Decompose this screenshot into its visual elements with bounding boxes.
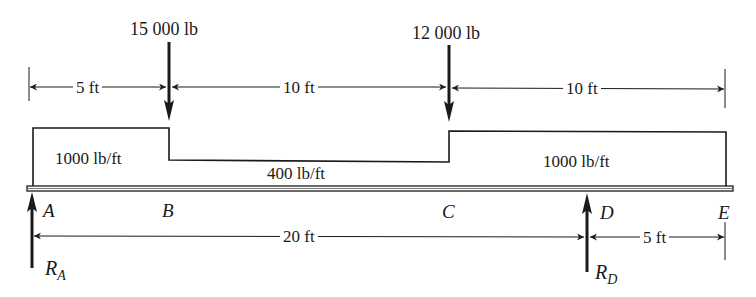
dist-load-c-e-label: 1000 lb/ft <box>543 153 610 170</box>
point-label-d: D <box>600 203 614 222</box>
reaction-d-label: RD <box>595 262 617 287</box>
dim-label-a-b: 5 ft <box>73 79 102 96</box>
point-load-c-arrow <box>444 45 454 122</box>
reaction-a-label: RA <box>45 258 66 283</box>
beam <box>27 186 733 191</box>
reaction-a-arrow <box>27 192 37 268</box>
upper-dimension-line <box>29 67 725 108</box>
point-load-b-arrow <box>164 42 174 121</box>
reaction-a-subscript: A <box>57 268 66 283</box>
dim-label-b-c: 10 ft <box>280 79 318 96</box>
point-load-c-label: 12 000 lb <box>412 24 480 42</box>
reaction-d-subscript: D <box>607 272 617 287</box>
dim-label-c-e: 10 ft <box>563 80 601 97</box>
beam-diagram: 15 000 lb 12 000 lb 5 ft 10 ft 10 ft 100… <box>0 0 756 297</box>
dim-label-d-e: 5 ft <box>640 229 669 246</box>
point-label-b: B <box>162 201 174 220</box>
point-label-a: A <box>43 201 55 220</box>
point-label-e: E <box>718 203 730 222</box>
reaction-a-symbol: R <box>45 257 57 279</box>
reaction-d-arrow <box>582 193 592 272</box>
dist-load-a-b-label: 1000 lb/ft <box>55 150 122 167</box>
reaction-d-symbol: R <box>595 261 607 283</box>
lower-dimension-line <box>34 222 725 260</box>
dist-load-b-c-label: 400 lb/ft <box>267 165 325 182</box>
dim-label-a-d: 20 ft <box>280 228 318 245</box>
distributed-load-outline <box>33 128 726 187</box>
point-load-b-label: 15 000 lb <box>130 20 198 38</box>
point-label-c: C <box>442 202 455 221</box>
